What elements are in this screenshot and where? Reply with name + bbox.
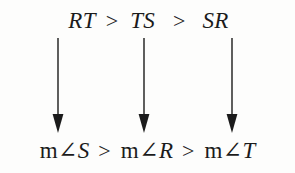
term-angle-measure-t: m∠T xyxy=(204,136,255,166)
bottom-inequality-row: m∠S > m∠R > m∠T xyxy=(0,136,295,170)
measure-prefix-t: m xyxy=(204,138,222,163)
measure-prefix-r: m xyxy=(121,138,139,163)
greater-than-operator-3: > xyxy=(98,136,110,166)
measure-prefix-s: m xyxy=(40,138,58,163)
arrow-rt-to-angle-s-icon xyxy=(50,38,66,134)
greater-than-operator-1: > xyxy=(106,6,118,36)
term-side-ts: TS xyxy=(130,6,155,36)
figure-canvas: RT > TS > SR m∠S > m∠R > xyxy=(0,0,295,173)
vertex-label-s: S xyxy=(78,138,90,163)
angle-icon-r: ∠ xyxy=(139,138,159,163)
arrow-sr-to-angle-t-icon xyxy=(224,38,240,134)
vertex-label-t: T xyxy=(243,138,256,163)
greater-than-operator-4: > xyxy=(182,136,194,166)
angle-icon-t: ∠ xyxy=(222,138,242,163)
greater-than-operator-2: > xyxy=(173,6,185,36)
term-angle-measure-r: m∠R xyxy=(121,136,173,166)
angle-icon-s: ∠ xyxy=(58,138,78,163)
term-angle-measure-s: m∠S xyxy=(40,136,90,166)
term-side-sr: SR xyxy=(203,6,229,36)
vertex-label-r: R xyxy=(159,138,173,163)
term-side-rt: RT xyxy=(68,6,95,36)
top-inequality-row: RT > TS > SR xyxy=(0,6,295,40)
arrow-ts-to-angle-r-icon xyxy=(136,38,152,134)
